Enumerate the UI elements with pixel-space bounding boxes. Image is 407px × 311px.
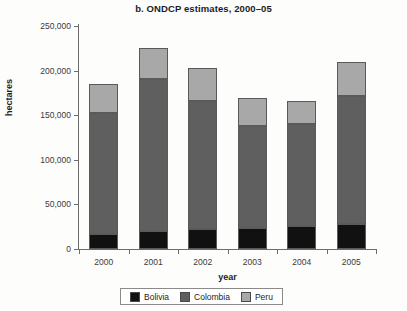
bar-segment-peru[interactable] [188, 68, 217, 101]
bar-stack[interactable] [238, 98, 267, 249]
y-axis-title: hectares [4, 79, 14, 116]
plot-area: 050,000100,000150,000200,000250,000 2000… [79, 26, 376, 249]
y-axis-tick [74, 71, 79, 72]
bar-segment-bolivia[interactable] [337, 224, 366, 249]
bar-segment-bolivia[interactable] [238, 228, 267, 249]
bar-segment-bolivia[interactable] [188, 229, 217, 249]
bar-segment-colombia[interactable] [287, 124, 316, 226]
x-axis-tick-label: 2004 [292, 257, 311, 267]
x-axis-tick [178, 249, 179, 254]
x-axis-tick-label: 2003 [243, 257, 262, 267]
bar-segment-colombia[interactable] [188, 101, 217, 229]
bar-segment-peru[interactable] [139, 48, 168, 78]
bar-segment-bolivia[interactable] [287, 226, 316, 249]
y-axis-tick [74, 26, 79, 27]
y-axis-tick [74, 160, 79, 161]
y-axis-tick-label: 50,000 [45, 199, 71, 209]
legend-swatch-icon [180, 292, 190, 302]
x-axis-tick-label: 2005 [342, 257, 361, 267]
x-axis-tick [129, 249, 130, 254]
x-axis-title: year [79, 272, 376, 282]
x-axis-tick [327, 249, 328, 254]
x-axis-tick-label: 2002 [193, 257, 212, 267]
bar-segment-colombia[interactable] [89, 113, 118, 233]
bar-segment-bolivia[interactable] [139, 231, 168, 249]
chart-figure: b. ONDCP estimates, 2000–05 hectares yea… [0, 0, 407, 311]
bar-segment-peru[interactable] [337, 62, 366, 96]
legend-label: Peru [255, 292, 273, 302]
bar-segment-bolivia[interactable] [89, 234, 118, 249]
y-axis-tick [74, 115, 79, 116]
x-axis-tick [376, 249, 377, 254]
legend-item-colombia[interactable]: Colombia [180, 292, 230, 302]
bar-segment-peru[interactable] [287, 101, 316, 124]
bar-stack[interactable] [188, 68, 217, 249]
y-axis-tick-label: 0 [66, 244, 71, 254]
legend-item-peru[interactable]: Peru [241, 292, 273, 302]
bar-segment-colombia[interactable] [337, 96, 366, 224]
x-axis-tick-label: 2001 [144, 257, 163, 267]
bar-segment-peru[interactable] [89, 84, 118, 113]
x-axis-tick [79, 249, 80, 254]
x-axis-tick [228, 249, 229, 254]
x-axis-tick-label: 2000 [94, 257, 113, 267]
y-axis-tick-label: 200,000 [40, 66, 71, 76]
y-axis-tick [74, 204, 79, 205]
y-axis-tick-label: 250,000 [40, 21, 71, 31]
chart-title: b. ONDCP estimates, 2000–05 [0, 3, 407, 14]
bar-segment-peru[interactable] [238, 98, 267, 126]
bar-segment-colombia[interactable] [238, 126, 267, 228]
y-axis-tick-label: 100,000 [40, 155, 71, 165]
legend-label: Colombia [194, 292, 230, 302]
x-axis-tick [277, 249, 278, 254]
bar-stack[interactable] [337, 62, 366, 249]
chart-legend: BoliviaColombiaPeru [120, 288, 283, 305]
bar-stack[interactable] [139, 48, 168, 249]
legend-item-bolivia[interactable]: Bolivia [130, 292, 169, 302]
bar-stack[interactable] [287, 101, 316, 249]
legend-swatch-icon [130, 292, 140, 302]
y-axis-tick-label: 150,000 [40, 110, 71, 120]
legend-swatch-icon [241, 292, 251, 302]
bar-segment-colombia[interactable] [139, 79, 168, 232]
bar-stack[interactable] [89, 84, 118, 249]
legend-label: Bolivia [144, 292, 169, 302]
